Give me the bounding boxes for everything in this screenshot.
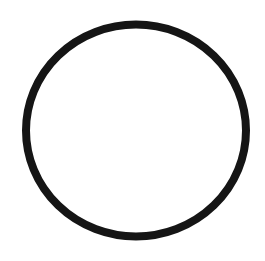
background <box>0 0 265 261</box>
canvas <box>0 0 265 261</box>
